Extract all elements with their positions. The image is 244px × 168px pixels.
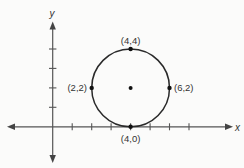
points — [90, 47, 172, 129]
x-axis-right-arrow-icon — [225, 124, 233, 130]
coordinate-plane: x y (4,4) (2,2) (6,2) (4,0) — [0, 0, 244, 168]
y-axis-up-arrow-icon — [50, 22, 56, 30]
label-2-2: (2,2) — [67, 82, 87, 93]
y-axis-label: y — [49, 8, 56, 19]
x-axis: x — [7, 122, 241, 133]
center-point — [129, 86, 133, 90]
x-axis-label: x — [234, 122, 241, 133]
point-6-2 — [167, 86, 171, 90]
y-axis-down-arrow-icon — [50, 155, 56, 163]
point-4-4 — [128, 47, 132, 51]
label-6-2: (6,2) — [174, 82, 194, 93]
point-4-0 — [128, 125, 132, 129]
label-4-4: (4,4) — [121, 35, 141, 46]
label-4-0: (4,0) — [121, 133, 141, 144]
point-2-2 — [90, 86, 94, 90]
x-axis-left-arrow-icon — [7, 124, 15, 130]
y-axis: y — [49, 8, 57, 163]
